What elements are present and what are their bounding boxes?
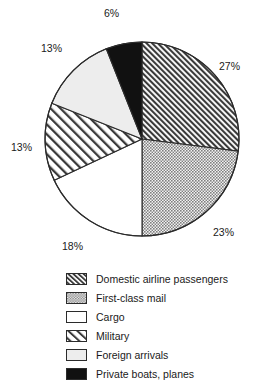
- pie-slice-domestic-airline-passengers: [142, 42, 239, 151]
- pie-label-first-class-mail: 23%: [213, 226, 234, 238]
- pie-label-cargo: 18%: [62, 240, 83, 252]
- legend-item-foreign-arrivals: Foreign arrivals: [66, 345, 260, 364]
- legend-label-foreign-arrivals: Foreign arrivals: [96, 349, 168, 361]
- pie-plot-area: 6% 13% 13% 18% 23% 27%: [0, 0, 260, 262]
- gray-checker-swatch-icon: [66, 292, 87, 304]
- legend: Domestic airline passengers First-class …: [66, 269, 260, 383]
- legend-item-domestic-airline-passengers: Domestic airline passengers: [66, 269, 260, 288]
- very-light-gray-swatch-icon: [66, 349, 87, 361]
- pie-label-military: 13%: [11, 141, 32, 153]
- pie-label-private-boats-planes: 6%: [104, 7, 119, 19]
- dense-diagonal-hatch-swatch-icon: [66, 273, 87, 285]
- legend-label-cargo: Cargo: [96, 311, 125, 323]
- solid-black-swatch-icon: [66, 368, 87, 380]
- pie-slice-first-class-mail: [142, 139, 238, 236]
- solid-white-swatch-icon: [66, 311, 87, 323]
- pie-label-domestic-airline-passengers: 27%: [219, 60, 240, 72]
- legend-label-first-class-mail: First-class mail: [96, 292, 166, 304]
- legend-item-cargo: Cargo: [66, 307, 260, 326]
- wide-diagonal-hatch-swatch-icon: [66, 330, 87, 342]
- legend-item-military: Military: [66, 326, 260, 345]
- legend-label-private-boats-planes: Private boats, planes: [96, 368, 194, 380]
- legend-item-first-class-mail: First-class mail: [66, 288, 260, 307]
- legend-item-private-boats-planes: Private boats, planes: [66, 364, 260, 383]
- legend-label-domestic-airline-passengers: Domestic airline passengers: [96, 273, 228, 285]
- pie-svg: [0, 0, 260, 262]
- pie-chart-figure: 6% 13% 13% 18% 23% 27% Domestic airline …: [0, 0, 260, 388]
- legend-label-military: Military: [96, 330, 129, 342]
- pie-label-foreign-arrivals: 13%: [41, 42, 62, 54]
